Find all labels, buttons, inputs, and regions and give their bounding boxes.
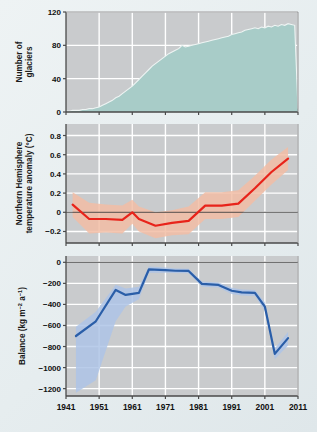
y-tick-label: 120 xyxy=(48,8,62,17)
y-axis-title-middle: Northern Hemisphere xyxy=(15,141,24,225)
y-tick-label: 40 xyxy=(52,75,61,84)
y-tick-label: 0 xyxy=(57,108,62,117)
panel-bottom: 0−200−400−600−800−1000−1200Balance (kg m… xyxy=(17,256,298,399)
y-tick-label: 80 xyxy=(52,41,61,50)
y-tick-label: 0.6 xyxy=(50,151,62,160)
x-tick-label: 1951 xyxy=(90,402,109,412)
y-axis-title-middle: temperature anomaly (°C) xyxy=(25,133,34,233)
figure-container: 04080120Number ofglaciers−0.200.20.40.60… xyxy=(0,0,317,432)
three-panel-chart: 04080120Number ofglaciers−0.200.20.40.60… xyxy=(0,0,317,432)
x-tick-label: 2001 xyxy=(256,402,275,412)
y-tick-label: 0 xyxy=(57,208,62,217)
x-tick-label: 2011 xyxy=(289,402,308,412)
y-tick-label: 0.8 xyxy=(50,132,62,141)
x-tick-label: 1971 xyxy=(156,402,175,412)
y-tick-label: −200 xyxy=(43,279,62,288)
panel-top: 04080120Number ofglaciers xyxy=(15,8,298,117)
x-tick-label: 1981 xyxy=(189,402,208,412)
x-axis-labels: 19411951196119711981199120012011 xyxy=(57,402,308,412)
y-axis-title-top: glaciers xyxy=(25,46,34,77)
y-tick-label: 0.2 xyxy=(50,189,62,198)
y-tick-label: −1200 xyxy=(39,385,62,394)
panel-middle: −0.200.20.40.60.8Northern Hemispheretemp… xyxy=(15,124,298,246)
y-tick-label: 0.4 xyxy=(50,170,62,179)
y-axis-title-top: Number of xyxy=(15,41,24,82)
x-tick-label: 1991 xyxy=(222,402,241,412)
y-tick-label: −800 xyxy=(43,343,62,352)
y-tick-label: 0 xyxy=(57,258,62,267)
y-tick-label: −0.2 xyxy=(45,227,61,236)
x-tick-label: 1941 xyxy=(57,402,76,412)
y-tick-label: −400 xyxy=(43,300,62,309)
x-tick-label: 1961 xyxy=(123,402,142,412)
y-axis-title-bottom: Balance (kg m−2 a−1) xyxy=(17,287,27,365)
y-tick-label: −600 xyxy=(43,321,62,330)
y-tick-label: −1000 xyxy=(39,364,62,373)
